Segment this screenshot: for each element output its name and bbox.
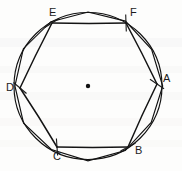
center-dot: [86, 84, 90, 88]
hexagon-side-cd: [20, 88, 57, 147]
vertex-label-e: E: [49, 7, 56, 18]
vertex-label-b: B: [135, 145, 142, 156]
center-point-marker: [86, 84, 90, 88]
hexagon-side-ab: [128, 84, 157, 147]
geometry-figure: ABCDEF: [0, 0, 182, 171]
vertex-label-c: C: [53, 151, 61, 162]
vertex-label-f: F: [130, 7, 137, 18]
tick-mark-f: [126, 15, 127, 32]
hexagon-side-de: [20, 23, 52, 88]
vertex-label-d: D: [6, 82, 14, 93]
diagram-canvas: [0, 0, 182, 171]
vertex-label-a: A: [163, 73, 170, 84]
